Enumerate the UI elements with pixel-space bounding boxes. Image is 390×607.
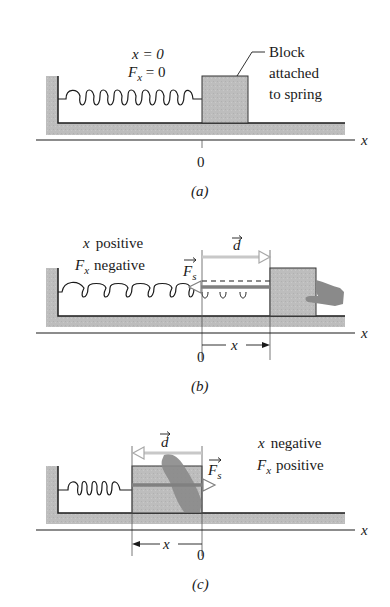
block-label-line3: to spring	[269, 86, 322, 102]
x-span-arrowhead	[132, 541, 140, 547]
block-label-line2: attached	[269, 65, 319, 81]
caption-c: (c)	[192, 576, 209, 593]
state-label-fx: Fx = 0	[127, 64, 166, 83]
x-span-label: x	[162, 536, 170, 552]
x-span-label: x	[230, 337, 238, 353]
spring-coils-behind	[202, 292, 246, 298]
state-label-fx-positive: Fxpositive	[256, 457, 324, 476]
spring-compressed	[58, 482, 132, 496]
force-label: Fs	[207, 462, 221, 481]
spring-relaxed	[58, 90, 202, 105]
axis-label: x	[360, 132, 368, 148]
origin-label: 0	[197, 349, 205, 365]
displacement-arrowhead	[133, 447, 144, 459]
spring-block-diagram: x = 0 Fx = 0 Block attached to spring 0 …	[0, 0, 390, 607]
state-label-x-positive: xpositive	[82, 235, 144, 251]
wall-and-floor	[46, 76, 345, 135]
origin-label: 0	[197, 547, 205, 563]
x-span-arrowhead	[262, 342, 270, 348]
spring-force-arrowhead	[189, 281, 201, 293]
state-label-x: x = 0	[131, 46, 164, 62]
block-leader-line	[237, 52, 265, 76]
panel-b: x xpositive Fxnegative d Fs 0 x (b)	[36, 235, 368, 395]
state-label-x-negative: xnegative	[257, 435, 322, 451]
caption-b: (b)	[191, 378, 209, 395]
block-label-line1: Block	[269, 44, 305, 60]
caption-a: (a)	[191, 183, 209, 200]
block	[202, 76, 248, 123]
panel-c: x xnegative Fxpositive d Fs 0 x (c)	[36, 432, 368, 594]
force-label: Fs	[182, 263, 196, 282]
spring-force-arrowhead	[203, 479, 215, 491]
axis-label: x	[360, 325, 368, 341]
block	[270, 268, 316, 316]
origin-label: 0	[197, 154, 205, 170]
axis-label: x	[360, 522, 368, 538]
spring-stretched	[58, 282, 194, 297]
vector-arrow-icon	[184, 258, 196, 263]
displacement-arrowhead	[259, 251, 270, 263]
state-label-fx-negative: Fxnegative	[74, 257, 145, 276]
panel-a: x = 0 Fx = 0 Block attached to spring 0 …	[36, 44, 368, 200]
